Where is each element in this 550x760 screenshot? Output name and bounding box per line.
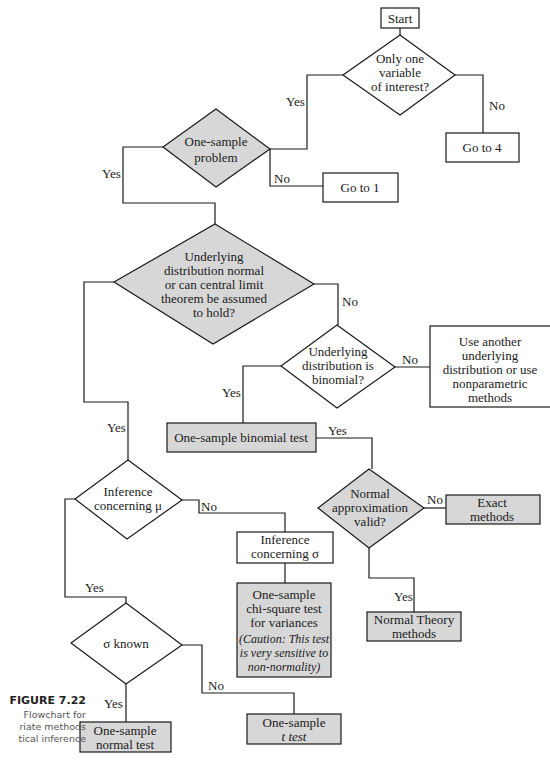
svg-text:is very sensitive to: is very sensitive to: [240, 646, 328, 660]
figure-caption-line: Flowchart for: [0, 709, 86, 720]
svg-text:methods: methods: [392, 626, 436, 641]
label-only-one-no: No: [489, 98, 505, 113]
chi-square-caution-note: (Caution: This test: [239, 632, 330, 646]
svg-text:distribution or use: distribution or use: [443, 362, 538, 377]
edge-binomial-test-yes: [316, 438, 372, 469]
label-sigma-known-yes: Yes: [104, 696, 123, 711]
svg-text:or can central limit: or can central limit: [165, 277, 264, 292]
svg-text:non-normality): non-normality): [248, 660, 321, 674]
figure-caption-line: riate methods: [0, 721, 86, 732]
svg-text:σ known: σ known: [103, 636, 149, 651]
figure-title: FIGURE 7.22: [0, 694, 86, 707]
box-inference-sigma: Inference concerning σ: [237, 532, 333, 563]
svg-text:Inference: Inference: [103, 484, 152, 499]
label-binomial-test-yes: Yes: [328, 423, 347, 438]
label-mu-yes: Yes: [85, 580, 104, 595]
box-chi-square-test: One-sample chi-square test for variances…: [237, 583, 331, 677]
svg-text:distribution is: distribution is: [302, 358, 374, 373]
svg-text:nonparametric: nonparametric: [452, 376, 527, 391]
svg-text:Inference: Inference: [260, 532, 309, 547]
svg-text:theorem be assumed: theorem be assumed: [161, 291, 268, 306]
box-one-sample-normal-test: One-sample normal test: [80, 722, 171, 752]
edge-only-one-no: [455, 75, 483, 133]
label-approx-no: No: [427, 492, 443, 507]
svg-text:Go to 4: Go to 4: [463, 140, 503, 155]
start-node: Start: [381, 8, 419, 28]
box-exact-methods: Exact methods: [446, 495, 540, 524]
svg-text:Normal Theory: Normal Theory: [374, 612, 455, 627]
box-go-to-4: Go to 4: [446, 133, 519, 162]
svg-text:concerning μ: concerning μ: [94, 498, 162, 513]
svg-text:One-sample: One-sample: [185, 134, 248, 149]
svg-text:for variances: for variances: [250, 615, 318, 630]
figure-caption-line: tical inference: [0, 733, 86, 744]
svg-text:One-sample: One-sample: [253, 587, 316, 602]
label-approx-yes: Yes: [394, 589, 413, 604]
label-sigma-known-no: No: [208, 678, 224, 693]
label-normal-no: No: [342, 294, 358, 309]
label-mu-no: No: [201, 499, 217, 514]
edge-only-one-yes: [270, 75, 343, 149]
svg-text:methods: methods: [468, 390, 512, 405]
decision-underlying-binomial: Underlying distribution is binomial?: [281, 325, 395, 408]
svg-text:Underlying: Underlying: [184, 249, 244, 264]
svg-text:to hold?: to hold?: [193, 305, 235, 320]
svg-text:t test: t test: [282, 729, 307, 744]
edge-binomial-yes: [243, 366, 281, 423]
svg-text:One-sample: One-sample: [263, 715, 326, 730]
decision-inference-mu: Inference concerning μ: [75, 460, 182, 539]
edge-mu-no: [182, 500, 285, 532]
svg-text:concerning σ: concerning σ: [251, 546, 319, 561]
svg-text:normal test: normal test: [96, 737, 155, 752]
svg-text:approximation: approximation: [332, 500, 408, 515]
svg-text:underlying: underlying: [462, 348, 519, 363]
box-go-to-1: Go to 1: [323, 173, 398, 202]
label-one-sample-yes: Yes: [102, 166, 121, 181]
svg-text:valid?: valid?: [354, 514, 386, 529]
svg-text:Only one: Only one: [376, 51, 424, 66]
svg-text:Go to 1: Go to 1: [341, 180, 380, 195]
decision-only-one-variable: Only one variable of interest?: [343, 35, 455, 115]
edge-normal-no: [314, 284, 338, 325]
box-use-another-distribution: Use another underlying distribution or u…: [430, 326, 550, 407]
label-only-one-yes: Yes: [286, 94, 305, 109]
box-one-sample-t-test: One-sample t test: [247, 714, 341, 744]
svg-text:variable: variable: [379, 65, 421, 80]
box-normal-theory-methods: Normal Theory methods: [367, 612, 461, 641]
svg-text:Exact: Exact: [477, 495, 507, 510]
flowchart: Start Only one variable of interest? Go …: [0, 0, 550, 760]
svg-text:binomial?: binomial?: [312, 372, 364, 387]
decision-normal-approximation: Normal approximation valid?: [318, 469, 424, 548]
svg-text:One-sample binomial test: One-sample binomial test: [174, 430, 308, 445]
svg-text:methods: methods: [470, 509, 514, 524]
svg-text:problem: problem: [194, 150, 237, 165]
box-one-sample-binomial-test: One-sample binomial test: [167, 423, 316, 452]
svg-text:One-sample: One-sample: [94, 723, 157, 738]
svg-text:distribution normal: distribution normal: [164, 263, 264, 278]
label-binomial-yes: Yes: [222, 385, 241, 400]
svg-text:Use another: Use another: [459, 334, 522, 349]
svg-text:Normal: Normal: [350, 486, 390, 501]
svg-text:Underlying: Underlying: [308, 344, 368, 359]
label-one-sample-no: No: [274, 171, 290, 186]
svg-text:chi-square test: chi-square test: [246, 601, 322, 616]
label-normal-yes: Yes: [107, 420, 126, 435]
label-binomial-no: No: [402, 352, 418, 367]
decision-underlying-normal: Underlying distribution normal or can ce…: [114, 224, 314, 344]
start-label: Start: [388, 11, 413, 26]
decision-one-sample-problem: One-sample problem: [163, 109, 270, 187]
decision-sigma-known: σ known: [71, 603, 182, 684]
svg-text:of interest?: of interest?: [371, 79, 429, 94]
